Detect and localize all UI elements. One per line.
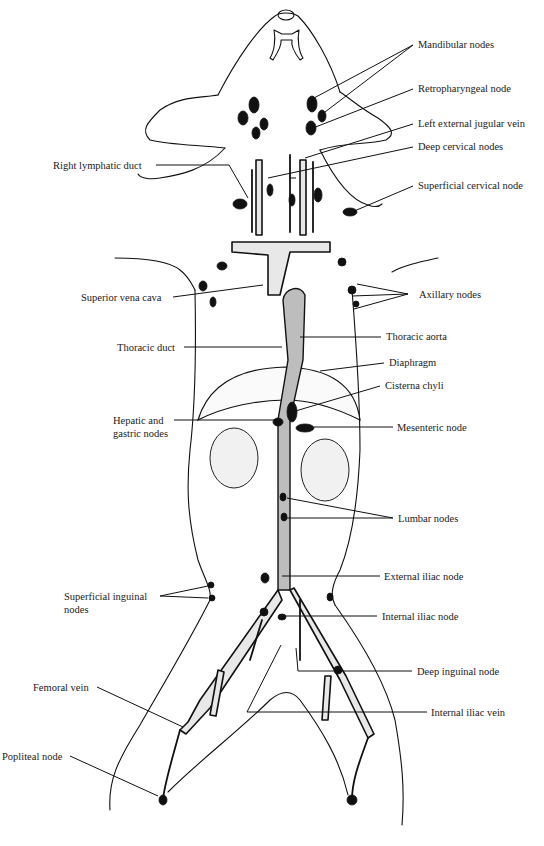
- label-cisterna-chyli: Cisterna chyli: [385, 379, 444, 392]
- label-external-iliac-node: External iliac node: [384, 570, 463, 583]
- label-popliteal-node: Popliteal node: [2, 750, 62, 763]
- label-superficial-inguinal-nodes: Superficial inguinal nodes: [64, 590, 164, 616]
- label-lumbar-nodes: Lumbar nodes: [398, 512, 458, 525]
- label-deep-inguinal-node: Deep inguinal node: [417, 665, 499, 678]
- iliac-vessels: [180, 588, 374, 738]
- lymph-vessel-left-leg: [163, 730, 180, 800]
- lymphatic-system-diagram: Mandibular nodes Retropharyngeal node Le…: [0, 0, 544, 846]
- label-mesenteric-node: Mesenteric node: [397, 421, 467, 434]
- label-femoral-vein: Femoral vein: [33, 681, 89, 694]
- label-axillary-nodes: Axillary nodes: [419, 288, 481, 301]
- label-retropharyngeal-node: Retropharyngeal node: [418, 82, 511, 95]
- label-mandibular-nodes: Mandibular nodes: [418, 38, 494, 51]
- label-left-external-jugular-vein: Left external jugular vein: [418, 117, 525, 130]
- label-right-lymphatic-duct: Right lymphatic duct: [53, 159, 142, 172]
- left-kidney: [301, 439, 349, 501]
- label-thoracic-aorta: Thoracic aorta: [386, 330, 447, 343]
- label-hepatic-and-gastric-nodes: Hepatic and gastric nodes: [113, 414, 183, 440]
- label-diaphragm: Diaphragm: [389, 356, 436, 369]
- right-kidney: [210, 428, 258, 488]
- label-superficial-cervical-node: Superficial cervical node: [418, 179, 523, 192]
- label-thoracic-duct: Thoracic duct: [117, 341, 175, 354]
- aorta: [278, 289, 305, 590]
- lymph-vessel-right-leg: [352, 738, 368, 800]
- label-deep-cervical-nodes: Deep cervical nodes: [418, 140, 503, 153]
- label-internal-iliac-vein: Internal iliac vein: [431, 706, 505, 719]
- label-superior-vena-cava: Superior vena cava: [81, 291, 161, 304]
- label-internal-iliac-node: Internal iliac node: [382, 610, 458, 623]
- jugular-veins: [252, 155, 313, 235]
